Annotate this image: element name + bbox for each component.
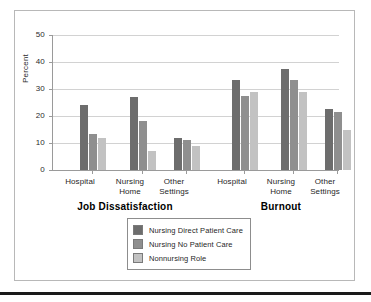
bar [281,69,289,170]
xtick-text-line1: Other [315,177,336,186]
legend-label-1: Nursing No Patient Care [149,240,233,249]
legend-item-1: Nursing No Patient Care [133,237,245,251]
bar [192,146,200,170]
chart-legend: Nursing Direct Patient Care Nursing No P… [127,218,251,270]
bar [241,96,249,170]
legend-swatch-icon-0 [133,225,143,235]
xtick-mark [244,170,245,174]
bar [343,130,351,171]
legend-item-0: Nursing Direct Patient Care [133,223,245,237]
x-axis-line [52,170,339,171]
legend-swatch-icon-2 [133,253,143,263]
xtick-mark [186,170,187,174]
bar [232,80,240,170]
ytick-label-0: 0 [23,166,45,174]
bar [139,121,147,170]
xtick-text-line2: Home [119,187,141,196]
xtick-text: Hospital [65,177,95,186]
ytick-label-10: 10 [23,139,45,147]
section-label-job-dissatisfaction: Job Dissatisfaction [55,201,195,212]
xtick-text: Hospital [217,177,247,186]
xtick-mark [92,170,93,174]
legend-label-0: Nursing Direct Patient Care [149,226,243,235]
bar [174,138,182,170]
xtick-text-line2: Home [270,187,292,196]
xtick-text-line1: Nursing [267,177,295,186]
bar [130,97,138,170]
gridline-40 [53,62,339,63]
legend-label-2: Nonnursing Role [149,254,206,263]
legend-item-2: Nonnursing Role [133,251,245,265]
gridline-50 [53,35,339,36]
legend-swatch-icon-1 [133,239,143,249]
bottom-divider-rule [0,292,371,295]
bar [183,140,191,170]
chart-figure-frame: 50 40 30 20 10 0 Percent Hospital Nursin… [14,10,355,281]
bar [290,80,298,170]
ytick-label-50: 50 [23,31,45,39]
bar [299,92,307,170]
xtick-text-line2: Settings [310,187,340,196]
xtick-text-line1: Nursing [116,177,144,186]
y-axis-line [52,35,53,170]
bar [98,138,106,170]
plot-area: 50 40 30 20 10 0 Percent [53,35,339,170]
xtick-text-line1: Other [164,177,185,186]
bar [325,109,333,170]
xtick-label-jd-nursing-home: Nursing Home [107,177,153,196]
xtick-mark [337,170,338,174]
xtick-text-line2: Settings [159,187,189,196]
xtick-label-bo-nursing-home: Nursing Home [258,177,304,196]
xtick-label-bo-hospital: Hospital [209,177,255,187]
bar [250,92,258,170]
xtick-mark [142,170,143,174]
xtick-mark [293,170,294,174]
section-label-burnout: Burnout [211,201,351,212]
bar [148,151,156,170]
ytick-label-30: 30 [23,85,45,93]
bar [89,134,97,170]
xtick-label-jd-other-settings: Other Settings [151,177,197,196]
bar [80,105,88,170]
ytick-label-20: 20 [23,112,45,120]
bar [334,112,342,170]
xtick-label-bo-other-settings: Other Settings [302,177,348,196]
y-axis-title: Percent [21,54,30,83]
xtick-label-jd-hospital: Hospital [57,177,103,187]
